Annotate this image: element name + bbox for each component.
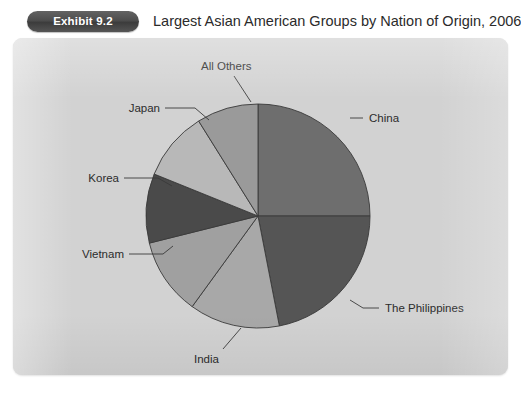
pie-slice-china bbox=[258, 104, 370, 216]
leader-line-india bbox=[223, 328, 241, 349]
leader-line-japan bbox=[165, 108, 209, 120]
page-title: Largest Asian American Groups by Nation … bbox=[153, 11, 521, 32]
pie-chart: All Others Japan Korea Vietnam India Chi… bbox=[13, 38, 508, 375]
chart-panel: All Others Japan Korea Vietnam India Chi… bbox=[13, 38, 508, 375]
slice-label-philippines: The Philippines bbox=[385, 302, 464, 314]
slice-label-vietnam: Vietnam bbox=[82, 248, 124, 260]
leader-line-philippines bbox=[350, 300, 379, 308]
slice-label-all-others: All Others bbox=[201, 60, 252, 72]
exhibit-number-badge: Exhibit 9.2 bbox=[27, 11, 139, 32]
slice-label-india: India bbox=[194, 353, 220, 365]
leader-line-all-others bbox=[234, 76, 251, 102]
slice-label-korea: Korea bbox=[88, 172, 119, 184]
pie-slice-group bbox=[146, 104, 370, 328]
slice-label-japan: Japan bbox=[129, 102, 160, 114]
slice-label-china: China bbox=[369, 112, 400, 124]
